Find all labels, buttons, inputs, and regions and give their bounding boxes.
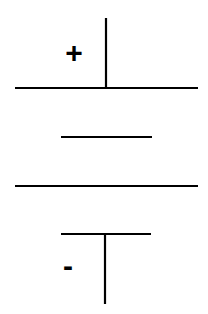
positive-terminal-label: + [60,38,88,68]
negative-terminal-label: - [54,251,82,281]
battery-diagram [0,0,208,314]
